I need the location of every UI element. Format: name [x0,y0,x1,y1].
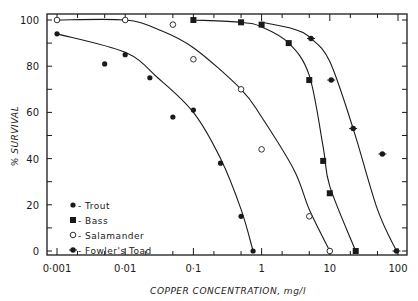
marker-bass [190,17,196,23]
marker-bass [353,248,359,254]
y-tick-label: 100 [20,15,39,26]
marker-trout [238,214,243,219]
legend-marker [70,232,76,238]
marker-trout [123,52,128,57]
marker-bass [306,77,312,83]
marker-salamander [122,17,128,23]
y-tick-label: 80 [26,61,39,72]
marker-salamander [54,17,60,23]
y-tick-label: 60 [26,107,39,118]
x-tick-label: 10 [323,263,336,274]
marker-bass [259,22,265,28]
x-tick-label: 0·001 [43,263,72,274]
curve-bass [193,20,355,251]
legend-marker [70,202,75,207]
y-tick-label: 0 [33,246,39,257]
marker-salamander [191,56,197,62]
marker-trout [218,161,223,166]
marker-salamander [170,22,176,28]
legend-label: - Salamander [78,231,144,241]
curve-fowler-s-toad [262,22,397,251]
x-tick-label: 1 [258,263,264,274]
x-tick-label: 100 [388,263,407,274]
marker-bass [320,158,326,164]
y-tick-label: 20 [26,200,39,211]
copper-survival-chart: 020406080100 0·0010·010·1110100 - Trout-… [0,0,418,301]
marker-trout [54,31,59,36]
marker-salamander [259,147,265,153]
marker-bass [327,190,333,196]
x-tick-label: 0·1 [185,263,201,274]
legend-label: - Fowler's Toad [78,246,152,256]
marker-trout [191,107,196,112]
y-axis-title: % SURVIVAL [10,106,20,167]
chart-canvas: 020406080100 0·0010·010·1110100 - Trout-… [0,0,418,301]
legend-label: - Bass [78,216,108,226]
marker-trout [102,61,107,66]
y-tick-label: 40 [26,154,39,165]
x-axis-title: COPPER CONCENTRATION, mg/l [150,286,306,296]
legend-label: - Trout [78,201,110,211]
marker-trout [147,75,152,80]
marker-salamander [327,248,333,254]
marker-trout [250,248,255,253]
marker-salamander [306,214,312,220]
marker-bass [286,40,292,46]
marker-salamander [238,87,244,93]
x-tick-label: 0·01 [114,263,136,274]
legend: - Trout- Bass- Salamander- Fowler's Toad [69,201,152,256]
legend-marker [70,217,76,223]
marker-bass [238,19,244,25]
marker-trout [170,114,175,119]
